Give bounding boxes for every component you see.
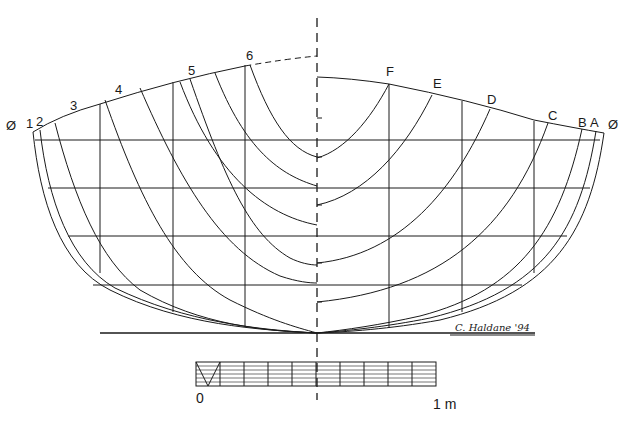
- scale-end-label: 1 m: [433, 396, 456, 412]
- station-label-e: E: [433, 76, 442, 91]
- sheer-line-aft: [33, 66, 245, 132]
- centerline-mark-right: Ø: [608, 117, 618, 132]
- station-label-c: C: [548, 108, 557, 123]
- scale-bar: [196, 362, 436, 386]
- scale-start-label: 0: [196, 390, 204, 406]
- station-label-3: 3: [70, 98, 77, 113]
- station-label-a: A: [590, 115, 599, 130]
- station-label-b: B: [578, 115, 587, 130]
- station-label-4: 4: [115, 82, 122, 97]
- station-label-1: 1: [26, 116, 33, 131]
- station-label-d: D: [487, 92, 496, 107]
- sheer-line-aft-dashed: [245, 56, 317, 66]
- station-label-2: 2: [36, 114, 43, 129]
- centerline-mark-left: Ø: [6, 118, 16, 133]
- station-label-6: 6: [246, 48, 253, 63]
- hull-body-plan-drawing: Ø 1 2 3 4 5 6 F E D C B A Ø C. Haldane '…: [0, 0, 638, 424]
- station-label-f: F: [386, 64, 394, 79]
- station-label-5: 5: [188, 63, 195, 78]
- centerline-ticks: [317, 118, 322, 302]
- forward-stations: [317, 84, 604, 333]
- signature: C. Haldane '94: [455, 322, 530, 333]
- sheer-line-forward: [317, 77, 604, 133]
